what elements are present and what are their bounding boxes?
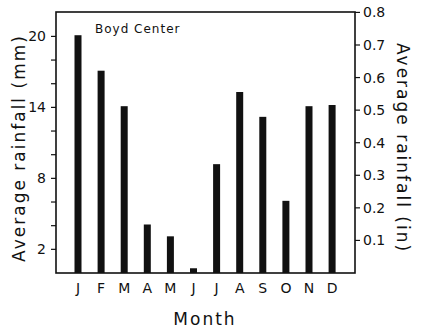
x-tick-label: A [143,280,153,296]
panel-title: Boyd Center [95,22,181,36]
left-axis-ticks: 281420 [28,28,56,257]
x-tick-label: F [97,280,105,296]
x-tick-label: J [190,280,195,296]
bar-s-8 [259,117,266,273]
x-tick-label: N [304,280,314,296]
left-tick-label: 14 [28,99,46,115]
y-axis-title-right: Average rainfall (in) [393,43,413,253]
bar-f-1 [98,71,105,273]
x-tick-label: M [164,280,176,296]
bar-a-3 [144,224,151,273]
right-tick-label: 0.7 [363,37,385,53]
x-tick-label: A [235,280,245,296]
right-tick-label: 0.2 [363,200,385,216]
y-axis-title-left: Average rainfall (mm) [9,34,29,262]
x-tick-label: S [258,280,267,296]
bar-j-5 [190,268,197,273]
bar-m-4 [167,236,174,273]
bars [75,35,336,273]
right-tick-label: 0.3 [363,167,385,183]
bar-m-2 [121,106,128,273]
x-axis-tick-labels: JFMAMJJASOND [75,280,338,296]
right-axis-ticks: 0.10.20.30.40.50.60.70.8 [355,4,385,248]
x-tick-label: D [327,280,338,296]
bar-o-9 [282,201,289,273]
bar-j-0 [75,35,82,273]
right-tick-label: 0.1 [363,232,385,248]
bar-j-6 [213,164,220,273]
bar-d-11 [329,105,336,273]
bar-n-10 [306,106,313,273]
left-tick-label: 20 [28,28,46,44]
right-tick-label: 0.6 [363,70,385,86]
left-tick-label: 2 [37,241,46,257]
x-tick-label: M [118,280,130,296]
bar-a-7 [236,92,243,273]
x-tick-label: J [75,280,80,296]
x-tick-label: O [280,280,291,296]
x-tick-label: J [214,280,219,296]
x-axis-title: Month [173,309,236,329]
rainfall-bar-chart: 281420 0.10.20.30.40.50.60.70.8 JFMAMJJA… [0,0,422,335]
right-tick-label: 0.8 [363,4,385,20]
right-tick-label: 0.4 [363,135,385,151]
left-tick-label: 8 [37,170,46,186]
right-tick-label: 0.5 [363,102,385,118]
